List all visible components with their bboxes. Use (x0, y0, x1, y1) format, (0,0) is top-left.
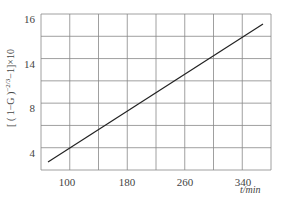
y-tick: 14 (24, 58, 36, 70)
y-tick: 8 (30, 102, 36, 114)
y-axis-ticks: 16 14 8 4 (24, 13, 36, 159)
x-tick: 260 (177, 176, 194, 188)
y-tick: 4 (30, 147, 36, 159)
x-tick: 100 (59, 176, 76, 188)
x-axis-ticks: 100 180 260 340 (59, 176, 252, 188)
y-label-exponent: −2/3 (4, 79, 12, 92)
x-tick: 180 (119, 176, 136, 188)
y-axis-label: [ ( 1−G )−2/3−1]×10 (4, 18, 20, 158)
data-line (48, 24, 263, 162)
x-axis-label: t/min (240, 184, 261, 195)
y-tick: 16 (24, 13, 36, 25)
y-label-tail: −1]×10 (5, 49, 16, 79)
chart-canvas: 100 180 260 340 16 14 8 4 (0, 0, 281, 204)
y-label-base: [ ( 1−G ) (5, 92, 16, 127)
